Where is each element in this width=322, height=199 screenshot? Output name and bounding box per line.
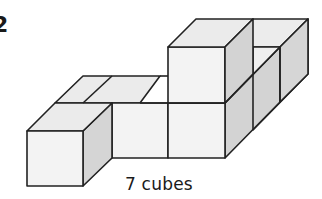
- cube-solid-figure: [0, 0, 322, 199]
- tall-cube-front-face: [168, 47, 225, 103]
- left-cube-front-face: [27, 131, 83, 186]
- front-face-middle-2: [168, 103, 225, 158]
- figure-caption: 7 cubes: [125, 174, 193, 194]
- front-face-middle-1: [112, 103, 168, 158]
